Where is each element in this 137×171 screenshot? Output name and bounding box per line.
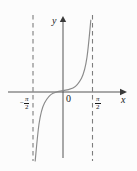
- fraction-pi-over-2-right: π 2: [95, 96, 101, 111]
- x-axis-label: x: [121, 95, 125, 105]
- fraction-denominator: 2: [24, 104, 30, 111]
- fraction-numerator: π: [24, 96, 30, 103]
- origin-label: 0: [66, 94, 71, 104]
- plot-canvas: [0, 0, 137, 171]
- fraction-pi-over-2-left: π 2: [24, 96, 30, 111]
- tangent-graph-figure: y x 0 − π 2 π 2: [0, 0, 137, 171]
- fraction-denominator: 2: [95, 104, 101, 111]
- tick-label-minus-pi-over-2: − π 2: [20, 96, 29, 111]
- y-axis-label: y: [52, 16, 56, 26]
- tick-label-pi-over-2: π 2: [95, 96, 101, 111]
- fraction-numerator: π: [95, 96, 101, 103]
- y-axis-arrow-icon: [60, 16, 66, 22]
